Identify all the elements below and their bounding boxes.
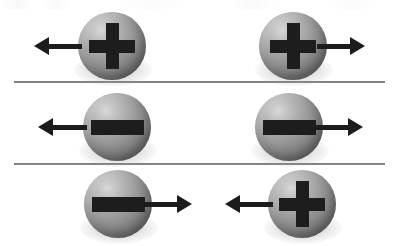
figure-canvas	[0, 0, 399, 246]
charged-sphere	[84, 170, 152, 238]
charged-sphere	[268, 170, 336, 238]
charge-row-3	[0, 0, 399, 246]
